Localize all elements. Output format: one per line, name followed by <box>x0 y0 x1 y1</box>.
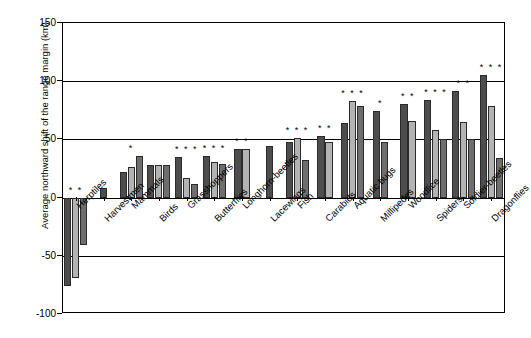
x-tick-mark-15 <box>491 197 492 201</box>
bar-woodlice-bar-2 <box>408 121 415 198</box>
x-tick-mark-3 <box>159 197 160 201</box>
significance-marks-dragonflies: * * * <box>480 64 503 71</box>
x-tick-mark-11 <box>380 197 381 201</box>
significance-marks-butterflies: * * * <box>203 145 226 152</box>
bar-grasshoppers-bar-2 <box>183 178 190 198</box>
x-tick-mark-13 <box>436 197 437 201</box>
bar-grasshoppers-bar-1 <box>175 157 182 198</box>
significance-marks-millipedes: * <box>378 100 383 107</box>
y-tick-mark--100 <box>57 313 62 314</box>
bar-spiders-bar-3 <box>440 139 447 197</box>
significance-marks-woodlice: * * <box>401 93 415 100</box>
bar-soldier-beetles-bar-1 <box>452 91 459 198</box>
bar-aquatic-bugs-bar-3 <box>357 106 364 198</box>
bar-herptiles-bar-2 <box>72 198 79 278</box>
significance-marks-aquatic-bugs: * * * <box>341 90 364 97</box>
x-tick-mark-7 <box>270 197 271 201</box>
significance-marks-carabids: * * <box>318 125 332 132</box>
y-tick-label--100: -100 <box>16 308 56 319</box>
significance-marks-fish: * * * <box>286 127 309 134</box>
bar-carabids-bar-1 <box>317 136 324 198</box>
significance-marks-mammals: * <box>129 145 134 152</box>
significance-marks-spiders: * * * <box>424 89 447 96</box>
bar-soldier-beetles-bar-2 <box>460 122 467 198</box>
significance-marks-grasshoppers: * * * <box>175 146 198 153</box>
significance-marks-soldier-beetles: * * <box>456 80 470 87</box>
y-tick-label-0: 0 <box>16 191 56 202</box>
y-tick-label--50: -50 <box>16 249 56 260</box>
y-tick-label-50: 50 <box>16 133 56 144</box>
x-tick-mark-1 <box>104 197 105 201</box>
y-tick-label-100: 100 <box>16 75 56 86</box>
bar-woodlice-bar-1 <box>400 104 407 197</box>
y-tick-label-150: 150 <box>16 17 56 28</box>
bar-carabids-bar-2 <box>325 142 332 198</box>
significance-marks-herptiles: * * <box>69 187 83 194</box>
bar-herptiles-bar-1 <box>64 198 71 286</box>
x-tick-mark-5 <box>214 197 215 201</box>
significance-marks-longhorn-beetles: * * <box>235 138 249 145</box>
x-tick-mark-9 <box>325 197 326 201</box>
bar-aquatic-bugs-bar-1 <box>341 123 348 197</box>
bar-aquatic-bugs-bar-2 <box>349 101 356 198</box>
